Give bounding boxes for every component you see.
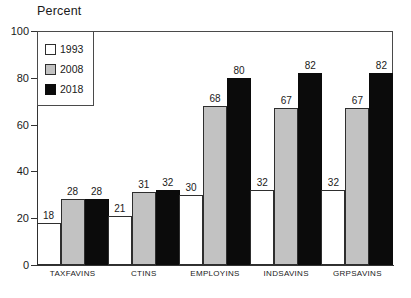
bar-value-label: 30 <box>185 182 196 193</box>
legend: 1993 2008 2018 <box>37 31 94 106</box>
x-axis-category-label: CTINS <box>131 269 157 278</box>
bar <box>274 108 298 265</box>
bar <box>132 192 156 265</box>
y-axis-tick <box>31 171 37 172</box>
y-axis-tick-label: 60 <box>0 119 29 131</box>
bar <box>156 190 180 265</box>
y-axis-tick <box>31 218 37 219</box>
x-axis-category-label: TAXFAVINS <box>50 269 96 278</box>
bar <box>321 190 345 265</box>
bar-value-label: 80 <box>233 65 244 76</box>
bar <box>298 73 322 265</box>
bar <box>37 223 61 265</box>
y-axis-tick <box>31 125 37 126</box>
bar <box>108 216 132 265</box>
x-axis-line <box>37 265 394 266</box>
legend-item-label: 1993 <box>60 43 83 55</box>
bar-value-label: 68 <box>209 93 220 104</box>
bar-value-label: 28 <box>91 186 102 197</box>
bar <box>179 195 203 265</box>
bar-value-label: 67 <box>352 95 363 106</box>
legend-item-label: 2008 <box>60 63 83 75</box>
bar <box>227 78 251 265</box>
bar-value-label: 32 <box>257 177 268 188</box>
bar-value-label: 67 <box>281 95 292 106</box>
y-axis-tick-label: 20 <box>0 212 29 224</box>
bar <box>250 190 274 265</box>
legend-swatch-icon <box>45 64 56 75</box>
x-axis-category-label: INDSAVINS <box>264 269 309 278</box>
legend-item[interactable]: 2018 <box>45 79 93 99</box>
legend-item[interactable]: 1993 <box>45 39 93 59</box>
legend-swatch-icon <box>45 84 56 95</box>
bar <box>203 106 227 265</box>
bar-value-label: 18 <box>43 210 54 221</box>
bar-value-label: 31 <box>138 179 149 190</box>
bar <box>61 199 85 265</box>
bar <box>345 108 369 265</box>
bar <box>369 73 393 265</box>
x-axis-category-label: GRPSAVINS <box>333 269 382 278</box>
bar-value-label: 32 <box>328 177 339 188</box>
x-axis-category-label: EMPLOYINS <box>190 269 239 278</box>
legend-item[interactable]: 2008 <box>45 59 93 79</box>
bar-value-label: 82 <box>305 60 316 71</box>
y-axis-tick-label: 80 <box>0 72 29 84</box>
page-title: Percent <box>37 4 81 18</box>
y-axis-tick-label: 100 <box>0 25 29 37</box>
y-axis-tick <box>31 265 37 266</box>
y-axis-tick-label: 0 <box>0 259 29 271</box>
bar <box>85 199 109 265</box>
bar-value-label: 82 <box>376 60 387 71</box>
y-axis-tick-label: 40 <box>0 165 29 177</box>
bar-chart: Percent 020406080100 1828282131323068803… <box>0 0 411 298</box>
bar-value-label: 32 <box>162 177 173 188</box>
bar-value-label: 21 <box>114 203 125 214</box>
legend-swatch-icon <box>45 44 56 55</box>
legend-item-label: 2018 <box>60 83 83 95</box>
bar-value-label: 28 <box>67 186 78 197</box>
